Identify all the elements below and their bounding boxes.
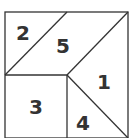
region-label-1: 1 [97, 70, 111, 94]
diagonal-top-right [67, 12, 128, 75]
region-label-5: 5 [56, 34, 70, 58]
dissection-diagram: 2 5 1 3 4 [0, 0, 131, 138]
region-label-4: 4 [76, 111, 90, 135]
region-label-2: 2 [16, 21, 30, 45]
region-label-3: 3 [29, 95, 43, 119]
